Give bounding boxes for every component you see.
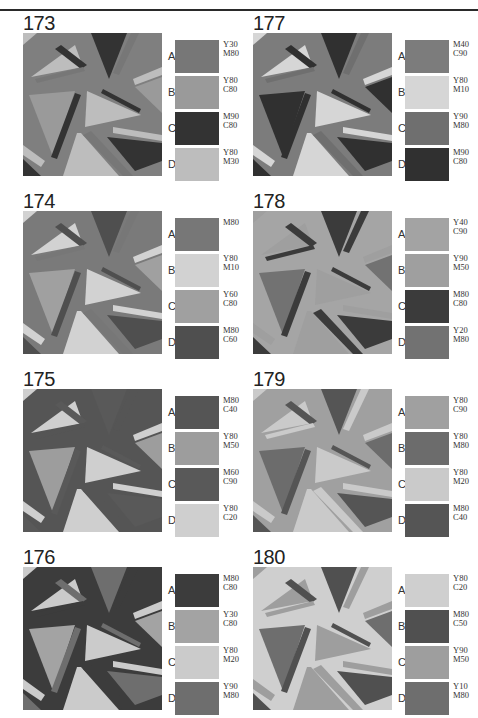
color-swatch — [405, 504, 449, 537]
swatch-code: Y80 M20 — [453, 468, 469, 486]
panel-number: 180 — [253, 547, 285, 567]
swatch-code: Y80 M50 — [223, 432, 239, 450]
swatch-row-c: C M60 C90 — [168, 468, 258, 501]
color-swatch — [405, 254, 449, 287]
swatch-code: Y80 C20 — [223, 504, 238, 522]
swatch-row-b: B Y30 C80 — [168, 610, 258, 643]
panel-number: 174 — [23, 191, 55, 211]
swatch-row-d: D M80 C60 — [168, 326, 258, 359]
swatch-code: M90 C80 — [223, 112, 239, 130]
color-swatch — [405, 646, 449, 679]
color-swatch — [405, 76, 449, 109]
swatch-code: Y80 M80 — [453, 432, 469, 450]
swatch-code: M80 C80 — [223, 574, 239, 592]
color-swatch — [405, 432, 449, 465]
triangle-pattern — [253, 211, 392, 354]
swatch-row-b: B Y90 M50 — [398, 254, 478, 287]
color-swatch — [175, 396, 219, 429]
color-swatch — [175, 218, 219, 251]
swatch-code: M80 C50 — [453, 610, 469, 628]
test-panel-175: 175 A M80 C40 B Y80 M50 C — [23, 369, 253, 541]
test-panel-176: 176 A M80 C80 B Y30 C80 C — [23, 547, 253, 718]
color-swatch — [175, 682, 219, 715]
swatch-code: Y30 M80 — [223, 40, 239, 58]
swatch-code: M80 C60 — [223, 326, 239, 344]
swatch-code: Y80 C80 — [223, 76, 238, 94]
swatch-row-c: C Y90 M80 — [398, 112, 478, 145]
swatch-code: Y80 C90 — [453, 396, 468, 414]
swatch-row-a: A Y80 C20 — [398, 574, 478, 607]
color-swatch — [175, 468, 219, 501]
swatch-row-d: D Y20 M80 — [398, 326, 478, 359]
swatch-row-a: A M80 C40 — [168, 396, 258, 429]
color-swatch — [405, 40, 449, 73]
swatch-row-d: D Y90 M80 — [168, 682, 258, 715]
swatch-code: M90 C80 — [453, 148, 469, 166]
color-swatch — [405, 112, 449, 145]
swatch-row-b: B Y80 M80 — [398, 432, 478, 465]
swatch-code: Y90 M80 — [223, 682, 239, 700]
color-swatch — [175, 574, 219, 607]
swatch-code: Y40 C90 — [453, 218, 468, 236]
triangle-pattern — [253, 389, 392, 532]
swatch-code: Y80 M20 — [223, 646, 239, 664]
swatch-row-d: D M90 C80 — [398, 148, 478, 181]
swatch-code: Y90 M80 — [453, 112, 469, 130]
color-swatch — [175, 504, 219, 537]
swatch-row-c: C M80 C80 — [398, 290, 478, 323]
triangle-pattern — [23, 389, 162, 532]
test-panel-180: 180 A Y80 C20 B M80 C50 C — [253, 547, 478, 718]
swatch-code: M80 C40 — [453, 504, 469, 522]
swatch-row-d: D Y80 M30 — [168, 148, 258, 181]
color-swatch — [405, 574, 449, 607]
color-swatch — [175, 40, 219, 73]
swatch-row-a: A Y30 M80 — [168, 40, 258, 73]
triangle-pattern — [23, 211, 162, 354]
swatch-row-c: C Y60 C80 — [168, 290, 258, 323]
panel-number: 173 — [23, 13, 55, 33]
test-panel-174: 174 A M80 B Y80 M10 C — [23, 191, 253, 363]
panel-number: 177 — [253, 13, 285, 33]
swatch-code: Y90 M50 — [453, 646, 469, 664]
color-swatch — [405, 290, 449, 323]
color-swatch — [405, 218, 449, 251]
color-swatch — [175, 326, 219, 359]
swatch-row-c: C Y80 M20 — [168, 646, 258, 679]
swatch-row-b: B Y80 M50 — [168, 432, 258, 465]
color-swatch — [405, 610, 449, 643]
swatch-row-c: C Y90 M50 — [398, 646, 478, 679]
swatch-row-b: B Y80 C80 — [168, 76, 258, 109]
swatch-code: Y10 M80 — [453, 682, 469, 700]
panel-number: 178 — [253, 191, 285, 211]
swatch-row-a: A Y80 C90 — [398, 396, 478, 429]
color-swatch — [405, 148, 449, 181]
swatch-row-b: B M80 C50 — [398, 610, 478, 643]
swatch-row-a: A M40 C90 — [398, 40, 478, 73]
swatch-row-d: D Y10 M80 — [398, 682, 478, 715]
swatch-code: M80 — [223, 218, 239, 227]
swatch-row-b: B Y80 M10 — [168, 254, 258, 287]
panel-number: 175 — [23, 369, 55, 389]
color-swatch — [175, 610, 219, 643]
color-swatch — [405, 468, 449, 501]
triangle-pattern — [23, 567, 162, 710]
swatch-code: Y20 M80 — [453, 326, 469, 344]
color-swatch — [175, 432, 219, 465]
swatch-code: M40 C90 — [453, 40, 469, 58]
swatch-code: Y30 C80 — [223, 610, 238, 628]
test-panel-177: 177 A M40 C90 B Y80 M10 C — [253, 13, 478, 185]
panel-number: 176 — [23, 547, 55, 567]
triangle-pattern — [23, 33, 162, 176]
color-swatch — [175, 290, 219, 323]
swatch-code: Y60 C80 — [223, 290, 238, 308]
swatch-code: Y80 M30 — [223, 148, 239, 166]
swatch-row-c: C M90 C80 — [168, 112, 258, 145]
color-swatch — [405, 396, 449, 429]
panel-number: 179 — [253, 369, 285, 389]
top-rule — [0, 9, 478, 11]
test-panel-178: 178 A Y40 C90 B Y90 M50 C — [253, 191, 478, 363]
swatch-code: Y80 C20 — [453, 574, 468, 592]
swatch-row-b: B Y80 M10 — [398, 76, 478, 109]
color-swatch — [405, 682, 449, 715]
swatch-code: Y80 M10 — [223, 254, 239, 272]
